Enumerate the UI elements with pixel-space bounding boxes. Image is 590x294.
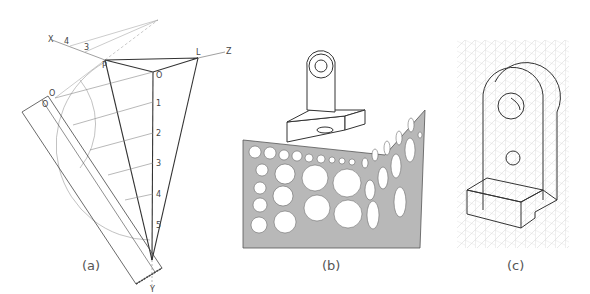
svg-text:O: O — [156, 71, 162, 80]
svg-text:5: 5 — [156, 221, 161, 230]
panel-a-isometric-scale: X 4 3 Z L P O 1 2 3 4 5 O O Y (a) — [0, 0, 235, 294]
caption-b: (b) — [322, 258, 340, 273]
isometric-grid-diagram — [445, 0, 590, 294]
svg-text:L: L — [196, 48, 201, 57]
axis-label-z: Z — [226, 47, 232, 56]
axis-label-y: Y — [149, 285, 155, 294]
svg-text:O: O — [42, 100, 48, 109]
caption-a: (a) — [82, 258, 100, 273]
caption-c: (c) — [507, 258, 524, 273]
svg-text:2: 2 — [156, 129, 161, 138]
ellipse-template-diagram — [235, 0, 445, 294]
svg-text:O: O — [49, 89, 55, 98]
panel-b-ellipse-template: (b) — [235, 0, 445, 294]
svg-text:4: 4 — [156, 190, 161, 199]
svg-text:4: 4 — [64, 37, 69, 46]
svg-text:P: P — [102, 61, 107, 70]
axis-label-x: X — [48, 35, 54, 44]
isometric-scale-diagram: X 4 3 Z L P O 1 2 3 4 5 O O Y — [0, 0, 235, 294]
svg-text:1: 1 — [156, 99, 161, 108]
svg-text:3: 3 — [84, 43, 89, 52]
panel-c-isometric-grid: (c) — [445, 0, 590, 294]
svg-text:3: 3 — [156, 159, 161, 168]
